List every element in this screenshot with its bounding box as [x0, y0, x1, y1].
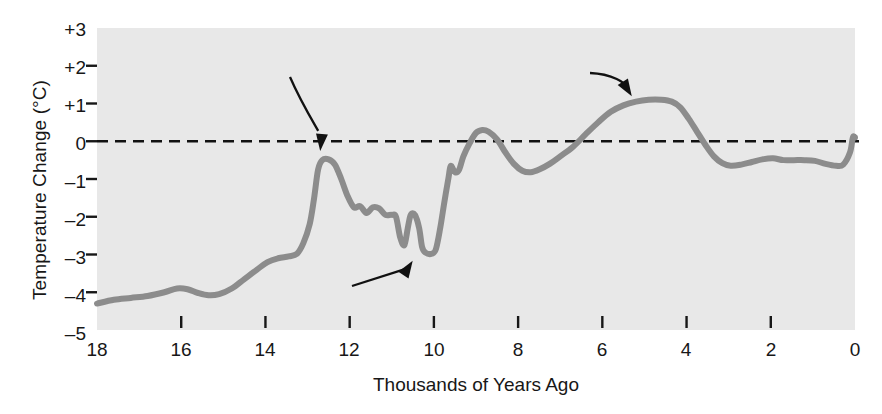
- temperature-change-chart: Temperature Change (°C) Thousands of Yea…: [0, 0, 882, 414]
- plot-canvas: [0, 0, 882, 414]
- plot-area-background: [97, 28, 855, 330]
- y-tick-marks: [86, 66, 97, 293]
